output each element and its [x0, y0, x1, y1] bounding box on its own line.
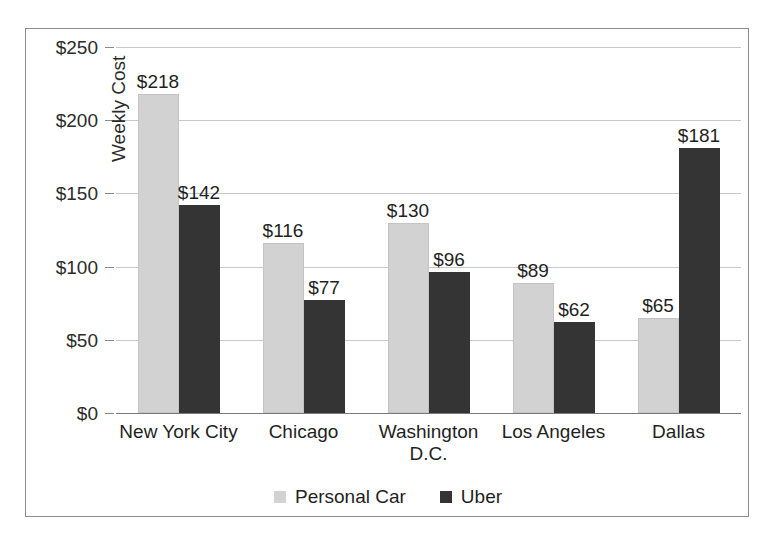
bar-value-label: $89: [517, 261, 549, 280]
bar[interactable]: $96: [429, 272, 470, 413]
category-label: Chicago: [231, 421, 376, 443]
y-axis-tick: [105, 413, 114, 414]
y-axis-tick-labels: $0$50$100$150$200$250: [18, 47, 98, 413]
legend-label: Personal Car: [295, 487, 406, 506]
category-label-line: D.C.: [356, 443, 501, 465]
gridline: [116, 47, 741, 48]
chart-legend: Personal CarUber: [26, 487, 750, 506]
bar-value-label: $218: [137, 72, 179, 91]
y-axis-tick-label: $150: [18, 184, 98, 203]
bar-value-label: $77: [308, 278, 340, 297]
chart-container: $0$50$100$150$200$250 Weekly Cost $218$1…: [25, 28, 749, 517]
legend-swatch: [274, 491, 286, 503]
bar[interactable]: $181: [679, 148, 720, 413]
bar-value-label: $142: [178, 183, 220, 202]
y-axis-tick-label: $250: [18, 38, 98, 57]
bar-value-label: $65: [642, 296, 674, 315]
legend-item[interactable]: Uber: [440, 487, 502, 506]
y-axis-title: Weekly Cost: [108, 56, 130, 162]
y-axis-tick: [105, 340, 114, 341]
bar[interactable]: $116: [263, 243, 304, 413]
y-axis-tick: [105, 193, 114, 194]
category-label-line: Dallas: [606, 421, 751, 443]
category-label-line: New York City: [106, 421, 251, 443]
y-axis-tick-label: $100: [18, 258, 98, 277]
category-label: New York City: [106, 421, 251, 443]
bar-value-label: $130: [387, 201, 429, 220]
category-label: Dallas: [606, 421, 751, 443]
y-axis-tick-label: $200: [18, 111, 98, 130]
bar[interactable]: $89: [513, 283, 554, 413]
legend-swatch: [440, 491, 452, 503]
legend-item[interactable]: Personal Car: [274, 487, 406, 506]
legend-label: Uber: [461, 487, 502, 506]
y-axis-tick: [105, 267, 114, 268]
gridline: [116, 413, 741, 414]
gridline: [116, 120, 741, 121]
bar[interactable]: $130: [388, 223, 429, 413]
bar[interactable]: $65: [638, 318, 679, 413]
category-label-line: Chicago: [231, 421, 376, 443]
bar-value-label: $116: [263, 221, 304, 240]
bar-value-label: $62: [558, 300, 590, 319]
bar[interactable]: $77: [304, 300, 345, 413]
bar[interactable]: $142: [179, 205, 220, 413]
bar[interactable]: $218: [138, 94, 179, 413]
category-label: Los Angeles: [481, 421, 626, 443]
category-label-line: Los Angeles: [481, 421, 626, 443]
y-axis-tick-label: $0: [18, 404, 98, 423]
y-axis-tick: [105, 47, 114, 48]
bar-value-label: $96: [433, 250, 465, 269]
bar[interactable]: $62: [554, 322, 595, 413]
plot-area: $0$50$100$150$200$250 Weekly Cost $218$1…: [116, 47, 741, 413]
y-axis-tick-label: $50: [18, 331, 98, 350]
category-label: WashingtonD.C.: [356, 421, 501, 465]
category-label-line: Washington: [356, 421, 501, 443]
bar-value-label: $181: [678, 126, 720, 145]
